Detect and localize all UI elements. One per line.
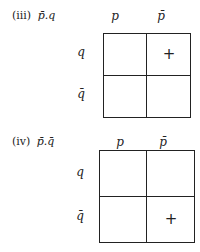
column-header-not-p: p̄: [159, 136, 167, 148]
diagram-numeral: (iii): [12, 9, 31, 22]
column-header-p: p: [111, 10, 119, 22]
row-header-q: q: [77, 46, 85, 58]
row-header-not-q: q̄: [77, 88, 85, 100]
column-header-p: p: [116, 136, 124, 148]
diagram-caption: (iv) p̄.q̄: [12, 136, 54, 147]
cell-q-not-p-plus-mark: +: [163, 47, 176, 62]
diagram-expression: p̄.q̄: [37, 135, 55, 148]
cell-not-q-not-p-plus-mark: +: [165, 212, 178, 227]
diagram-numeral: (iv): [12, 135, 30, 148]
diagram-expression: p̄.q: [38, 9, 56, 22]
diagram-caption: (iii) p̄.q: [12, 10, 55, 21]
grid-divider-horizontal: [103, 75, 191, 76]
row-header-not-q: q̄: [76, 210, 84, 222]
row-header-q: q: [76, 166, 84, 178]
grid-divider-horizontal: [99, 196, 195, 197]
column-header-not-p: p̄: [157, 10, 165, 22]
